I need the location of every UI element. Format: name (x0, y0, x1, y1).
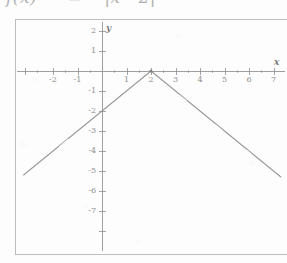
vertex-marker (149, 69, 152, 72)
curve-stroke (24, 71, 281, 177)
plot-area: x y -2 -1 1 2 3 4 5 6 7 (0, 0, 287, 263)
scanned-graph-page: f(x)=-|x - 2| x y -2 -1 1 (0, 0, 287, 263)
function-curve (0, 0, 287, 263)
